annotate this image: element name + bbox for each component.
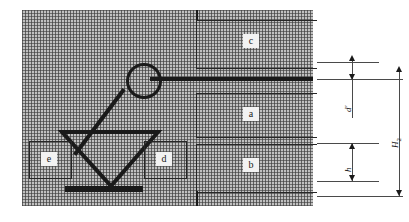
dim-line-H2 — [399, 68, 400, 196]
base-plate — [65, 186, 143, 192]
dim-label-H2-base: H — [390, 142, 400, 149]
extension-line-h-top — [317, 143, 379, 144]
part-label-d: d — [156, 152, 172, 166]
dimension-annotation-layer: d′ h H2 — [313, 0, 409, 222]
dim-label-h: h — [343, 168, 353, 173]
dim-arrow-h-down — [349, 175, 355, 181]
part-label-e: e — [41, 152, 57, 166]
dim-arrow-d-prime-up — [349, 55, 355, 61]
extension-line-h-bottom — [317, 181, 379, 182]
region-label-c: c — [243, 34, 259, 48]
extension-line-shaft — [317, 79, 403, 80]
dim-label-H2: H2 — [390, 138, 403, 148]
dim-arrow-h-up — [349, 143, 355, 149]
pulley-circle — [126, 63, 162, 99]
technical-diagram: c a b e d d′ h H2 — [0, 0, 409, 222]
dim-label-H2-sub: 2 — [395, 138, 403, 142]
panel-divider-line — [196, 10, 198, 20]
region-label-b: b — [243, 158, 259, 172]
dim-arrow-H2-up — [396, 66, 402, 72]
dim-label-d-prime: d′ — [343, 106, 353, 112]
extension-line-top — [317, 62, 379, 63]
dim-arrow-H2-down — [396, 190, 402, 196]
region-label-a: a — [243, 107, 259, 121]
horizontal-shaft — [150, 77, 313, 81]
extension-line-bottom — [317, 196, 403, 197]
panel-divider-line-lower — [196, 191, 198, 206]
dim-arrow-d-prime-down — [349, 74, 355, 80]
